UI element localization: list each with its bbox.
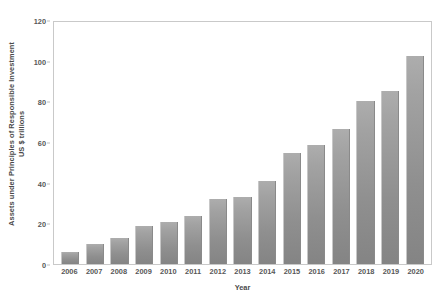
y-axis-tick-label: 120 bbox=[34, 17, 46, 26]
x-axis-tick-label: 2012 bbox=[205, 267, 230, 279]
y-axis-tick-mark bbox=[47, 143, 50, 144]
y-axis-tick-label: 80 bbox=[38, 98, 46, 107]
bar-2019 bbox=[381, 91, 399, 264]
y-axis-tick-label: 40 bbox=[38, 179, 46, 188]
bar-series bbox=[54, 22, 431, 264]
x-axis-tick-label: 2010 bbox=[156, 267, 181, 279]
bar-2015 bbox=[283, 153, 301, 264]
y-axis-tick-mark bbox=[47, 61, 50, 62]
bar-slot bbox=[156, 22, 181, 264]
bar-slot bbox=[107, 22, 132, 264]
bar-slot bbox=[206, 22, 231, 264]
x-axis-tick-label: 2017 bbox=[329, 267, 354, 279]
bar-2013 bbox=[233, 197, 251, 264]
bar-slot bbox=[329, 22, 354, 264]
x-axis-tick-label: 2016 bbox=[304, 267, 329, 279]
x-axis-tick-label: 2019 bbox=[379, 267, 404, 279]
x-axis-tick-label: 2013 bbox=[230, 267, 255, 279]
bar-slot bbox=[83, 22, 108, 264]
bar-slot bbox=[353, 22, 378, 264]
plot-area bbox=[53, 21, 432, 265]
bar-slot bbox=[304, 22, 329, 264]
x-axis-tick-label: 2008 bbox=[106, 267, 131, 279]
x-axis-tick-label: 2006 bbox=[57, 267, 82, 279]
x-axis-tick-label: 2011 bbox=[181, 267, 206, 279]
bar-2011 bbox=[184, 216, 202, 264]
bar-slot bbox=[181, 22, 206, 264]
y-axis-tick-mark bbox=[47, 265, 50, 266]
x-axis-tick-labels: 2006200720082009201020112012201320142015… bbox=[53, 267, 432, 279]
x-axis-tick-label: 2007 bbox=[82, 267, 107, 279]
x-axis-tick-label: 2009 bbox=[131, 267, 156, 279]
x-axis-tick-label: 2020 bbox=[403, 267, 428, 279]
bar-2018 bbox=[356, 101, 374, 264]
bar-2012 bbox=[209, 199, 227, 264]
bar-2016 bbox=[307, 145, 325, 264]
bar-2006 bbox=[61, 252, 79, 264]
bar-2020 bbox=[406, 56, 424, 264]
x-axis-tick-label: 2018 bbox=[354, 267, 379, 279]
bar-slot bbox=[279, 22, 304, 264]
y-axis-title-line1: Assets under Principles of Responsible I… bbox=[7, 42, 17, 226]
bar-2009 bbox=[135, 226, 153, 264]
bar-2014 bbox=[258, 181, 276, 264]
bar-2007 bbox=[86, 244, 104, 264]
bar-2010 bbox=[160, 222, 178, 264]
x-axis-tick-label: 2014 bbox=[255, 267, 280, 279]
y-axis-tick-mark bbox=[47, 183, 50, 184]
y-axis-tick-mark bbox=[47, 224, 50, 225]
x-axis-tick-label: 2015 bbox=[280, 267, 305, 279]
y-axis-tick-mark bbox=[47, 21, 50, 22]
y-axis-tick-label: 60 bbox=[38, 139, 46, 148]
y-axis-tick-mark bbox=[47, 102, 50, 103]
bar-2008 bbox=[110, 238, 128, 264]
bar-slot bbox=[402, 22, 427, 264]
bar-2017 bbox=[332, 129, 350, 264]
y-axis-tick-labels: 020406080100120 bbox=[24, 0, 50, 280]
y-axis-tick-label: 0 bbox=[42, 261, 46, 270]
bar-slot bbox=[58, 22, 83, 264]
x-axis-title: Year bbox=[53, 283, 432, 292]
bar-slot bbox=[378, 22, 403, 264]
y-axis-tick-label: 100 bbox=[34, 57, 46, 66]
bar-slot bbox=[230, 22, 255, 264]
bar-slot bbox=[132, 22, 157, 264]
bar-chart-figure: Assets under Principles of Responsible I… bbox=[0, 0, 446, 304]
y-axis-tick-label: 20 bbox=[38, 220, 46, 229]
bar-slot bbox=[255, 22, 280, 264]
